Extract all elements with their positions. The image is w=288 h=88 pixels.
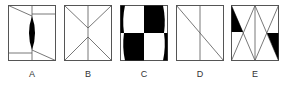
figure-d-shape <box>176 5 224 61</box>
label-b: B <box>64 69 112 79</box>
figure-c-shape <box>120 5 168 61</box>
figure-d <box>176 5 224 61</box>
figure-e-shape <box>231 5 279 61</box>
label-a: A <box>8 69 56 79</box>
figure-e <box>231 5 279 61</box>
label-c: C <box>120 69 168 79</box>
figure-b <box>64 5 112 61</box>
label-d: D <box>176 69 224 79</box>
label-e: E <box>231 69 279 79</box>
figure-b-shape <box>64 5 112 61</box>
figure-a-shape <box>8 5 56 61</box>
figure-a <box>8 5 56 61</box>
figure-c <box>120 5 168 61</box>
